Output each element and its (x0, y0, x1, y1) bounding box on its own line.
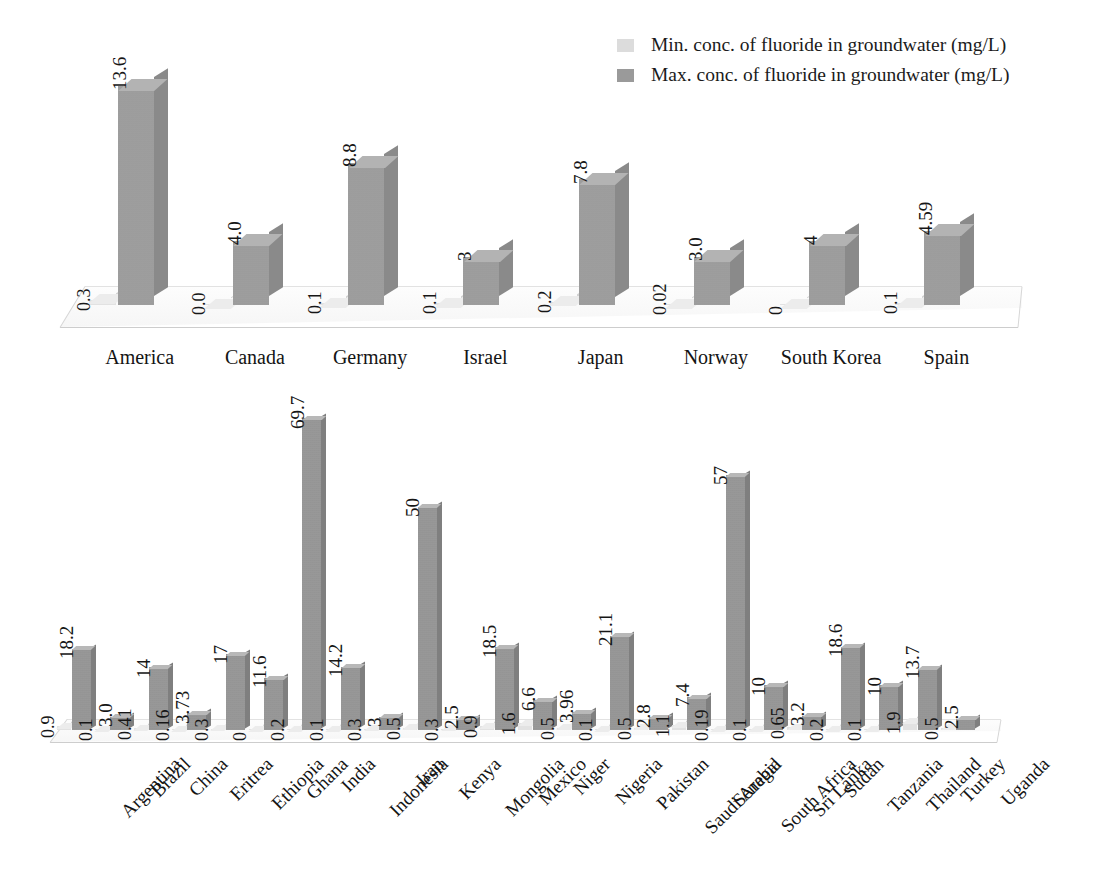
value-label-min-israel: 0.1 (421, 292, 439, 315)
bar-face-front (348, 163, 384, 305)
value-label-max-saudi-arabia: 2.8 (634, 704, 653, 728)
bar-min-indonesia (326, 729, 340, 730)
bar-max-america (118, 86, 154, 305)
bar-face-front (463, 257, 499, 305)
value-label-min-uganda: 0.5 (923, 717, 941, 740)
bar-min-ghana (249, 729, 263, 730)
bar-face-front (694, 257, 730, 305)
bar-min-india (287, 729, 301, 730)
value-label-max-south-africa: 57 (711, 466, 730, 485)
value-label-min-kenya: 0.5 (385, 717, 403, 740)
value-label-max-turkey: 13.7 (903, 646, 922, 679)
bar-face-front (302, 418, 321, 730)
category-label-israel: Israel (463, 347, 507, 367)
value-label-min-turkey: 1.9 (885, 711, 903, 734)
bar-face-side (437, 502, 442, 729)
bar-min-argentina (57, 726, 71, 730)
value-label-max-south-korea: 4 (801, 235, 820, 245)
value-label-min-america: 0.3 (75, 289, 93, 312)
bar-face-front (418, 507, 437, 731)
value-label-max-mongolia: 2.5 (442, 705, 461, 729)
value-label-max-ghana: 11.6 (250, 656, 269, 689)
category-label-south-korea: South Korea (781, 347, 882, 367)
bar-max-canada (233, 241, 269, 305)
bar-face-side (321, 414, 326, 729)
bar-max-tanzania (841, 647, 860, 730)
value-label-max-germany: 8.8 (340, 144, 359, 168)
bar-min-senegal (672, 725, 686, 730)
bar-max-india (302, 418, 321, 730)
floor-edge (60, 327, 1018, 328)
value-label-min-ghana: 0 (231, 732, 249, 741)
value-label-max-israel: 3 (455, 251, 474, 261)
value-label-min-japan: 0.2 (536, 290, 554, 313)
category-label-norway: Norway (684, 347, 748, 367)
bar-min-kenya (403, 728, 417, 730)
category-label-uganda: Uganda (997, 754, 1052, 809)
bar-max-norway (694, 257, 730, 305)
value-label-min-senegal: 1.1 (654, 715, 672, 738)
bar-face-front (841, 647, 860, 730)
bar-face-side (730, 239, 744, 296)
bar-face-side (499, 239, 513, 296)
bar-min-thailand (864, 729, 878, 730)
bar-min-turkey (903, 722, 917, 730)
value-label-max-niger: 6.6 (519, 687, 538, 711)
floor-edge (85, 286, 1022, 287)
bar-face-side (384, 146, 398, 297)
value-label-max-thailand: 10 (865, 677, 884, 696)
legend-item-min: Min. conc. of fluoride in groundwater (m… (617, 30, 1009, 60)
value-label-max-norway: 3.0 (686, 237, 705, 261)
value-label-min-argentina: 0.9 (39, 715, 57, 738)
value-label-max-america: 13.6 (110, 57, 129, 90)
value-label-min-canada: 0.0 (190, 293, 208, 316)
bar-face-side (154, 68, 168, 296)
value-label-max-pakistan: 21.1 (596, 613, 615, 646)
category-label-china: China (185, 754, 231, 800)
value-label-min-pakistan: 0.1 (577, 719, 595, 742)
value-label-min-sri-lanka: 0.1 (731, 719, 749, 742)
value-label-max-ethiopia: 17 (211, 645, 230, 664)
bar-min-saudi-arabia (634, 728, 648, 730)
bar-max-south-africa (726, 475, 745, 730)
value-label-min-mongolia: 0.3 (423, 718, 441, 741)
bar-min-south-africa (711, 729, 725, 730)
category-label-brazil: Brazil (147, 754, 193, 800)
bar-face-front (610, 636, 629, 730)
bar-min-nigeria (557, 728, 571, 730)
value-label-max-uganda: 2.5 (942, 705, 961, 729)
bar-min-iran (364, 729, 378, 730)
floor-edge (50, 742, 997, 743)
value-label-max-kenya: 50 (403, 498, 422, 517)
bar-min-brazil (95, 729, 109, 730)
value-label-max-india: 69.7 (288, 395, 307, 428)
page-top-bleed-text (0, 0, 1097, 14)
value-label-max-brazil: 3.0 (96, 703, 115, 727)
value-label-min-spain: 0.1 (882, 292, 900, 315)
value-label-min-tanzania: 0.2 (808, 719, 826, 742)
bar-min-ethiopia (211, 729, 225, 730)
value-label-max-argentina: 18.2 (57, 626, 76, 659)
bar-face-front (726, 475, 745, 730)
value-label-min-south-africa: 0.19 (693, 710, 711, 742)
bar-min-mexico (480, 726, 494, 730)
chart-developing-countries: 0.918.2Argentina0.13.0Brazil0.4114China0… (0, 380, 1097, 876)
value-label-max-senegal: 7.4 (673, 683, 692, 707)
value-label-min-sudan: 0.65 (769, 708, 787, 740)
value-label-min-iran: 0.3 (346, 718, 364, 741)
bar-face-front (579, 179, 615, 305)
bar-max-kenya (418, 507, 437, 731)
bar-max-spain (924, 231, 960, 305)
bar-min-sri-lanka (749, 729, 763, 730)
bar-face-front (118, 86, 154, 305)
bar-face-front (924, 231, 960, 305)
value-label-min-south-korea: 0 (767, 306, 785, 315)
category-label-canada: Canada (225, 347, 285, 367)
value-label-min-indonesia: 0.1 (308, 719, 326, 742)
bar-max-ethiopia (226, 654, 245, 730)
legend-label-min: Min. conc. of fluoride in groundwater (m… (651, 34, 1006, 56)
value-label-min-thailand: 0.1 (846, 719, 864, 742)
bar-min-china (134, 728, 148, 730)
category-label-kenya: Kenya (456, 754, 505, 803)
value-label-max-iran: 3 (365, 717, 384, 727)
